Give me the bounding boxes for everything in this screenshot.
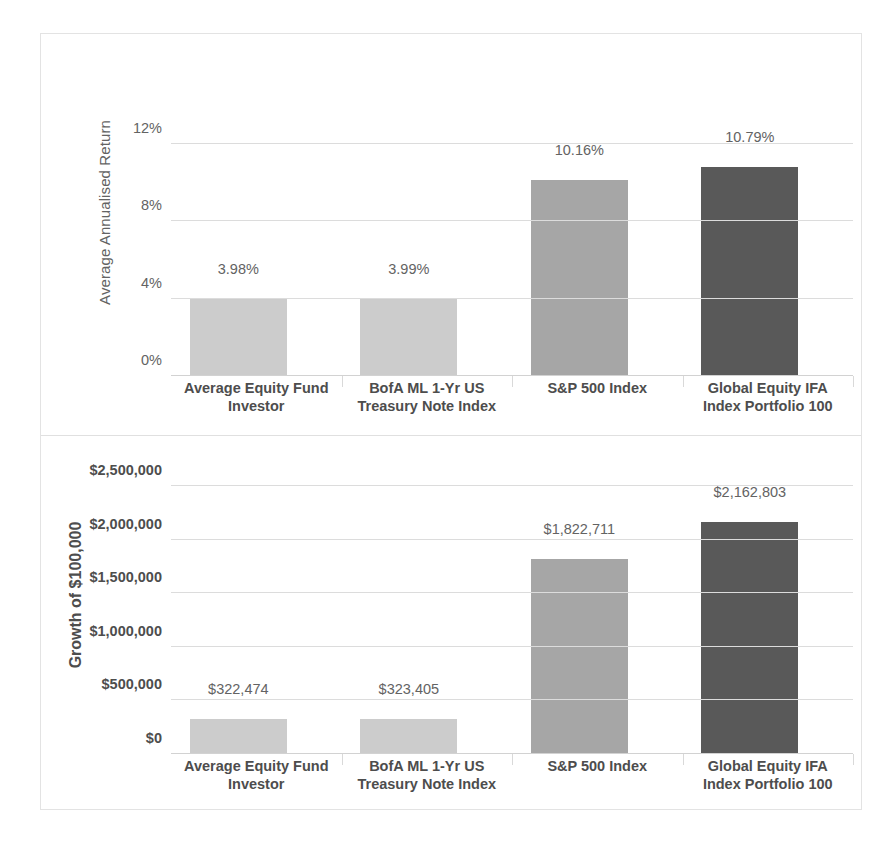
top-chart-category-tick [853,376,854,387]
bottom-chart-y-tick-label: $0 [146,730,171,746]
top-chart-bar[interactable] [701,167,798,376]
bottom-chart-bar[interactable] [360,719,457,754]
bottom-chart-bar-value-label: $1,822,711 [531,521,628,540]
bottom-chart-category-label-line: Investor [174,775,339,793]
top-chart-category-label-line: Global Equity IFA [686,379,851,397]
top-chart-bar-slot: 10.79% [683,144,854,376]
bottom-chart-bar-value-label: $322,474 [190,681,287,700]
bottom-chart-category-label-line: S&P 500 Index [515,757,680,775]
top-chart-category-label-line: Treasury Note Index [345,397,510,415]
bottom-chart-y-tick-label: $2,500,000 [89,462,171,478]
bottom-chart-gridline [171,485,853,486]
chart-panel-growth: Growth of $100,000 $322,474$323,405$1,82… [41,435,861,810]
bottom-chart-bar-slot: $322,474 [171,486,342,754]
bottom-chart-category-label: S&P 500 Index [512,757,683,793]
bottom-chart-category-label: BofA ML 1-Yr USTreasury Note Index [342,757,513,793]
top-chart-category-label-line: Investor [174,397,339,415]
top-chart-category-labels: Average Equity FundInvestorBofA ML 1-Yr … [171,379,853,415]
top-chart-bar-value-label: 10.16% [531,142,628,161]
bottom-chart-bar[interactable] [190,719,287,754]
top-chart-category-label: S&P 500 Index [512,379,683,415]
top-chart-y-tick-label: 0% [141,352,171,368]
top-chart-category-label: Global Equity IFAIndex Portfolio 100 [683,379,854,415]
bottom-chart-category-label-line: Average Equity Fund [174,757,339,775]
bottom-chart-y-tick-label: $2,000,000 [89,516,171,532]
bottom-chart-bars: $322,474$323,405$1,822,711$2,162,803 [171,486,853,754]
bottom-chart-category-tick [853,754,854,765]
top-chart-gridline [171,298,853,299]
bottom-chart-gridline [171,646,853,647]
bottom-chart-gridline [171,592,853,593]
bottom-chart-bar-value-label: $323,405 [360,681,457,700]
top-chart-category-label-line: Average Equity Fund [174,379,339,397]
top-chart-bar-slot: 10.16% [512,144,683,376]
bottom-chart-bar[interactable] [531,559,628,754]
top-chart-category-label-line: Index Portfolio 100 [686,397,851,415]
top-chart-bar[interactable] [531,180,628,376]
bottom-chart-y-tick-label: $1,000,000 [89,623,171,639]
bottom-chart-category-label-line: Global Equity IFA [686,757,851,775]
bottom-chart-gridline [171,753,853,754]
top-chart-bar-slot: 3.98% [171,144,342,376]
bottom-chart-category-label-line: Index Portfolio 100 [686,775,851,793]
top-chart-y-axis-title: Average Annualised Return [96,98,113,328]
bottom-chart-gridline [171,539,853,540]
top-chart-bar[interactable] [360,299,457,376]
top-chart-gridline [171,220,853,221]
top-chart-bar-value-label: 3.99% [360,261,457,280]
top-chart-y-tick-label: 12% [133,120,171,136]
bottom-chart-category-label-line: BofA ML 1-Yr US [345,757,510,775]
bottom-chart-bar-slot: $323,405 [342,486,513,754]
top-chart-bar-value-label: 10.79% [701,129,798,148]
bottom-chart-category-labels: Average Equity FundInvestorBofA ML 1-Yr … [171,757,853,793]
bottom-chart-y-tick-label: $1,500,000 [89,569,171,585]
bottom-chart-plot-area: $322,474$323,405$1,822,711$2,162,803 $0$… [171,486,853,754]
top-chart-category-label-line: BofA ML 1-Yr US [345,379,510,397]
top-chart-gridline [171,375,853,376]
top-chart-bar-slot: 3.99% [342,144,513,376]
bottom-chart-category-label-line: Treasury Note Index [345,775,510,793]
bottom-chart-bar-slot: $2,162,803 [683,486,854,754]
top-chart-gridline [171,143,853,144]
bottom-chart-category-label: Average Equity FundInvestor [171,757,342,793]
top-chart-y-tick-label: 8% [141,197,171,213]
top-chart-plot-area: 3.98%3.99%10.16%10.79% 0%4%8%12% [171,144,853,376]
bottom-chart-bar-slot: $1,822,711 [512,486,683,754]
top-chart-bar-value-label: 3.98% [190,261,287,280]
bottom-chart-y-tick-label: $500,000 [102,676,171,692]
figure-frame: Average Annualised Return 3.98%3.99%10.1… [40,33,862,810]
top-chart-category-label: Average Equity FundInvestor [171,379,342,415]
top-chart-category-label: BofA ML 1-Yr USTreasury Note Index [342,379,513,415]
top-chart-y-tick-label: 4% [141,275,171,291]
chart-panel-annualised-return: Average Annualised Return 3.98%3.99%10.1… [41,34,861,434]
top-chart-bar[interactable] [190,299,287,376]
bottom-chart-gridline [171,699,853,700]
bottom-chart-bar-value-label: $2,162,803 [701,484,798,503]
bottom-chart-category-label: Global Equity IFAIndex Portfolio 100 [683,757,854,793]
bottom-chart-y-axis-title: Growth of $100,000 [67,483,85,708]
top-chart-bars: 3.98%3.99%10.16%10.79% [171,144,853,376]
bottom-chart-bar[interactable] [701,522,798,754]
top-chart-category-label-line: S&P 500 Index [515,379,680,397]
